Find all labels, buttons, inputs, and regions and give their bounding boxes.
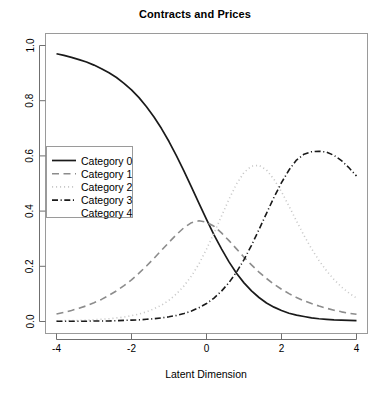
plot-area: 0.00.20.40.60.81.0 -4-2024 Latent Dimens…: [0, 0, 390, 397]
y-tick-label: 1.0: [25, 38, 36, 52]
legend-label-2: Category 2: [81, 181, 133, 193]
x-axis: -4-2024: [52, 334, 360, 355]
y-tick-label: 0.6: [25, 149, 36, 163]
legend-label-1: Category 1: [81, 168, 133, 180]
legend-label-4: Category 4: [81, 207, 133, 219]
curve-series-1: [57, 221, 357, 315]
legend: Category 0Category 1Category 2Category 3…: [47, 147, 133, 220]
x-tick-label: 2: [279, 343, 285, 354]
legend-label-3: Category 3: [81, 194, 133, 206]
x-tick-label: -4: [52, 343, 61, 354]
y-tick-group: 0.00.20.40.60.81.0: [25, 38, 46, 328]
x-axis-title: Latent Dimension: [165, 368, 247, 380]
y-axis: 0.00.20.40.60.81.0: [25, 38, 46, 328]
x-tick-label: -2: [127, 343, 136, 354]
y-tick-label: 0.0: [25, 314, 36, 328]
legend-label-0: Category 0: [81, 155, 133, 167]
y-tick-label: 0.2: [25, 259, 36, 273]
x-tick-label: 4: [354, 343, 360, 354]
y-tick-label: 0.8: [25, 93, 36, 107]
y-tick-label: 0.4: [25, 204, 36, 218]
x-tick-label: 0: [204, 343, 210, 354]
chart-page: Contracts and Prices 0.00.20.40.60.81.0 …: [0, 0, 390, 397]
x-tick-group: -4-2024: [52, 334, 360, 355]
